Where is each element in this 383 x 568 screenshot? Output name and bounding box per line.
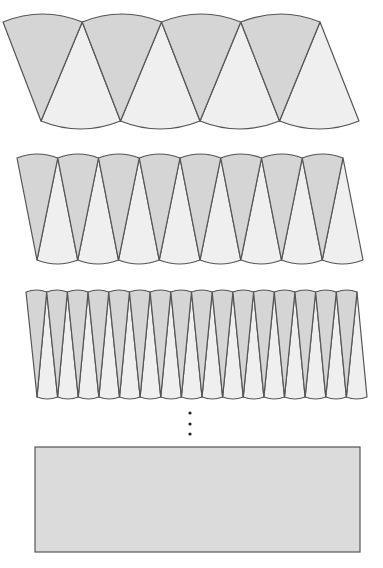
ellipsis-dot [188,422,191,425]
ellipsis-dot [188,411,191,414]
sector-rows [3,14,367,399]
row-32-sectors [26,290,367,399]
ellipsis-dots [188,411,191,435]
row-16-sectors [17,154,363,264]
ellipsis-dot [188,432,191,435]
row-8-sectors [3,14,359,129]
limit-rectangle [35,447,360,552]
sector-rearrangement-diagram [0,0,383,568]
